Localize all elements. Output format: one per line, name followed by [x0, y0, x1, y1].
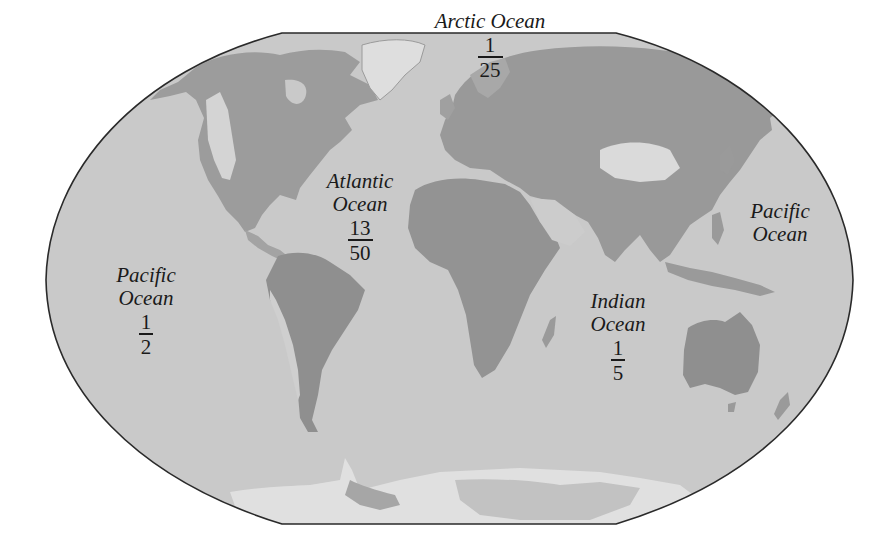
fraction-denominator: 25 [478, 60, 503, 80]
ocean-name: Pacific Ocean [730, 200, 830, 246]
indian-ocean-label: Indian Ocean 1 5 [568, 290, 668, 383]
fraction: 1 5 [611, 338, 626, 383]
arctic-ocean-label: Arctic Ocean 1 25 [420, 10, 560, 80]
fraction-numerator: 1 [139, 312, 154, 332]
fraction-denominator: 2 [139, 337, 154, 357]
ocean-name: Pacific Ocean [100, 264, 192, 310]
fraction-numerator: 1 [611, 338, 626, 358]
fraction-denominator: 50 [348, 243, 373, 263]
world-map: Arctic Ocean 1 25 Atlantic Ocean 13 50 P… [0, 0, 894, 558]
ocean-name: Atlantic Ocean [310, 170, 410, 216]
pacific-ocean-east-label: Pacific Ocean [730, 200, 830, 246]
pacific-ocean-west-label: Pacific Ocean 1 2 [100, 264, 192, 357]
fraction: 1 25 [478, 35, 503, 80]
atlantic-ocean-label: Atlantic Ocean 13 50 [310, 170, 410, 263]
fraction: 13 50 [348, 218, 373, 263]
ocean-name: Indian Ocean [568, 290, 668, 336]
fraction: 1 2 [139, 312, 154, 357]
ocean-name: Arctic Ocean [420, 10, 560, 33]
fraction-numerator: 13 [348, 218, 373, 238]
fraction-denominator: 5 [611, 363, 626, 383]
fraction-numerator: 1 [483, 35, 498, 55]
